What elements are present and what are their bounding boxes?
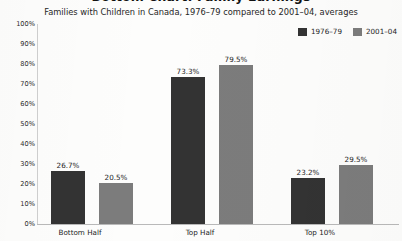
bar-series-2[interactable] (99, 183, 133, 224)
y-axis-tick: 30% (2, 160, 35, 168)
chart-subtitle: Families with Children in Canada, 1976–7… (0, 7, 402, 17)
bar-value-label: 20.5% (93, 173, 139, 182)
bar-value-label: 79.5% (213, 55, 259, 64)
bar-series-1[interactable] (51, 171, 85, 224)
bar-group-top-ten: 23.2% 29.5% (277, 24, 397, 224)
y-axis-tick: 10% (2, 200, 35, 208)
y-axis-tick: 40% (2, 140, 35, 148)
bar-value-label: 23.2% (285, 168, 331, 177)
bar-series-1[interactable] (291, 178, 325, 224)
x-axis-line (37, 224, 399, 225)
bar-value-label: 29.5% (333, 155, 379, 164)
y-axis-tick: 60% (2, 100, 35, 108)
y-axis-tick: 0% (2, 220, 35, 228)
y-axis-tick: 50% (2, 120, 35, 128)
y-axis-tick: 70% (2, 80, 35, 88)
bar-value-label: 26.7% (45, 161, 91, 170)
bar-series-2[interactable] (339, 165, 373, 224)
y-axis-tick: 90% (2, 40, 35, 48)
bar-value-label: 73.3% (165, 67, 211, 76)
x-axis-category-label: Top Half (145, 228, 255, 237)
y-axis-tick: 20% (2, 180, 35, 188)
bar-series-1[interactable] (171, 77, 205, 224)
plot-area: 26.7% 20.5% 73.3% 79.5% 23.2% 29.5% (37, 24, 397, 224)
bar-group-bottom-half: 26.7% 20.5% (37, 24, 157, 224)
y-axis: 100% 90% 80% 70% 60% 50% 40% 30% 20% 10%… (0, 24, 35, 224)
x-axis-category-label: Top 10% (265, 228, 375, 237)
y-axis-tick: 100% (2, 20, 35, 28)
bar-series-2[interactable] (219, 65, 253, 224)
bar-group-top-half: 73.3% 79.5% (157, 24, 277, 224)
y-axis-tick: 80% (2, 60, 35, 68)
x-axis-category-label: Bottom Half (25, 228, 135, 237)
chart-title: Bottom Chart: Family Earnings (0, 0, 402, 4)
bar-chart-figure: Bottom Chart: Family Earnings Families w… (0, 0, 402, 241)
